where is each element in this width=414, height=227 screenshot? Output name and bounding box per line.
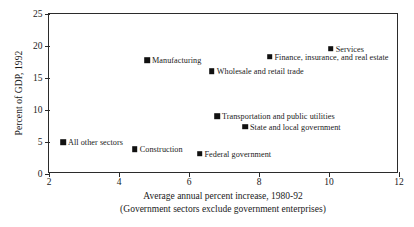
data-point-label: Federal government	[205, 149, 272, 158]
y-axis-tick-label: 0	[38, 169, 46, 179]
x-axis-title: Average annual percent increase, 1980-92…	[48, 190, 398, 215]
y-axis-tick-label: 5	[38, 137, 46, 147]
y-axis-title: Percent of GDP, 1992	[14, 8, 24, 178]
data-point-label: Transportation and public utilities	[222, 112, 335, 121]
x-axis-tick-label: 6	[187, 177, 192, 187]
data-point-marker[interactable]	[242, 124, 248, 130]
data-point-label: Construction	[140, 145, 183, 154]
x-axis-tick-label: 10	[324, 177, 334, 187]
y-axis-tick-label: 25	[33, 9, 46, 19]
x-axis-tick-label: 2	[47, 177, 52, 187]
data-point-marker[interactable]	[144, 57, 150, 63]
y-axis-tick-label: 20	[33, 41, 46, 51]
data-point-marker[interactable]	[328, 46, 334, 52]
data-point-label: Wholesale and retail trade	[217, 66, 304, 75]
data-point-label: Finance, insurance, and real estate	[275, 52, 389, 61]
data-point-label: Services	[336, 44, 364, 53]
x-axis-tick-label: 12	[394, 177, 404, 187]
data-point-marker[interactable]	[60, 139, 66, 145]
data-point-label: All other sectors	[68, 138, 123, 147]
data-point-marker[interactable]	[209, 68, 215, 74]
x-axis-title-line2: (Government sectors exclude government e…	[48, 203, 398, 216]
data-point-marker[interactable]	[132, 146, 138, 152]
data-point-label: Manufacturing	[152, 56, 201, 65]
scatter-chart-figure: Percent of GDP, 1992 051015202524681012A…	[0, 0, 414, 227]
data-point-marker[interactable]	[214, 114, 220, 120]
plot-area: 051015202524681012All other sectorsConst…	[48, 13, 398, 173]
x-axis-tick-label: 4	[117, 177, 122, 187]
data-point-marker[interactable]	[197, 151, 203, 157]
y-axis-tick-label: 15	[33, 73, 46, 83]
x-axis-title-line1: Average annual percent increase, 1980-92	[48, 190, 398, 203]
x-axis-tick-label: 8	[257, 177, 262, 187]
data-point-marker[interactable]	[267, 54, 273, 60]
data-point-label: State and local government	[250, 122, 341, 131]
y-axis-tick-label: 10	[33, 105, 46, 115]
